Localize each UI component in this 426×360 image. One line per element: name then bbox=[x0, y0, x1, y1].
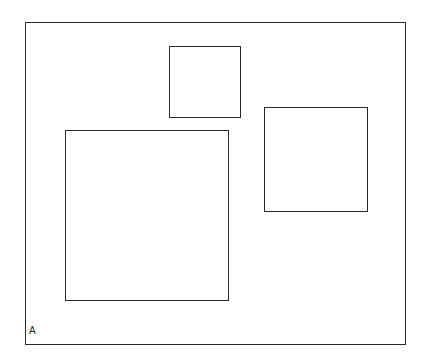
frame-label: A bbox=[29, 326, 36, 336]
large-square bbox=[65, 130, 229, 301]
small-square bbox=[169, 46, 241, 118]
right-square bbox=[264, 107, 368, 212]
